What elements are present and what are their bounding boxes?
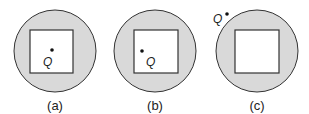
panel-b: Q (b) xyxy=(114,10,196,113)
point-q-dot xyxy=(140,49,144,53)
point-q-dot xyxy=(225,12,229,16)
inner-square xyxy=(235,30,279,73)
point-q-dot xyxy=(50,48,54,52)
caption-c: (c) xyxy=(249,98,264,113)
panel-c: Q (c) xyxy=(213,10,298,113)
point-q-label: Q xyxy=(146,55,155,69)
point-q-label: Q xyxy=(43,55,52,69)
point-q-label: Q xyxy=(213,12,222,26)
caption-a: (a) xyxy=(47,98,63,113)
caption-b: (b) xyxy=(147,98,163,113)
panel-a: Q (a) xyxy=(14,10,96,113)
diagram-canvas: Q (a) Q (b) Q (c) xyxy=(0,0,309,114)
